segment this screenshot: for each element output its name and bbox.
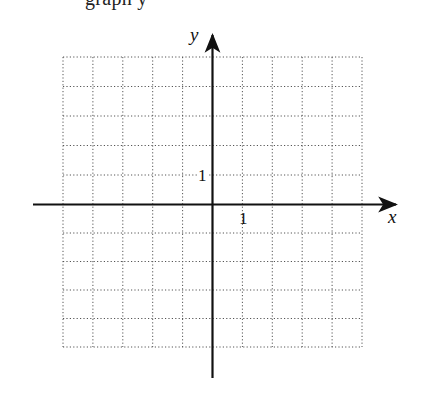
x-tick-label: 1	[239, 210, 248, 227]
x-axis-label: x	[388, 207, 396, 226]
coordinate-plane-figure: graph y y x 1 1	[0, 0, 430, 400]
y-tick-label: 1	[197, 167, 208, 184]
y-axis-label: y	[190, 25, 198, 44]
coordinate-grid	[0, 0, 430, 400]
